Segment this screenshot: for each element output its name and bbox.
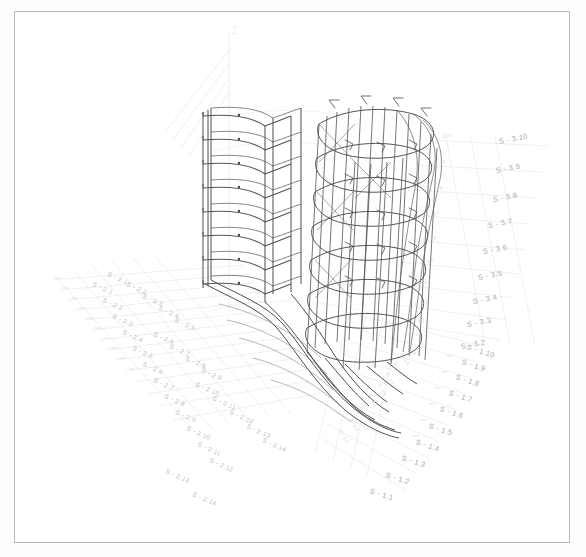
drawing-sheet: S - 0 S - 3.10 S - 3.9 S - 3.8 S - 3.7 S… [0, 0, 586, 557]
drawing-frame: S - 0 S - 3.10 S - 3.9 S - 3.8 S - 3.7 S… [14, 11, 570, 543]
